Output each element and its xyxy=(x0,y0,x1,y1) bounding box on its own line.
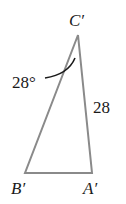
vertex-label-b: B′ xyxy=(11,180,25,197)
angle-label: 28° xyxy=(12,74,36,91)
triangle-shape xyxy=(25,35,92,173)
triangle-diagram: C′ 28° 28 B′ A′ xyxy=(0,0,126,204)
angle-arc-leader xyxy=(45,58,75,78)
vertex-label-c: C′ xyxy=(69,12,84,29)
vertex-label-a: A′ xyxy=(83,180,97,197)
side-length-label: 28 xyxy=(93,99,110,116)
